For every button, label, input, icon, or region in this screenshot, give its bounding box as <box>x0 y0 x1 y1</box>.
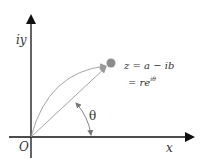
complex-plane-diagram: iy O x θ z = a − ib = reiθ <box>0 0 201 167</box>
y-axis-label: iy <box>16 34 27 46</box>
point-label-polar: = reiθ <box>128 76 156 88</box>
polar-exponent: iθ <box>150 75 156 82</box>
point-label-cartesian: z = a − ib <box>124 61 174 71</box>
origin-label: O <box>19 141 29 153</box>
angle-label: θ <box>89 110 96 122</box>
vector-r <box>31 67 106 137</box>
point-z <box>107 59 116 68</box>
x-axis-label: x <box>166 142 173 154</box>
polar-prefix: = re <box>128 77 150 88</box>
